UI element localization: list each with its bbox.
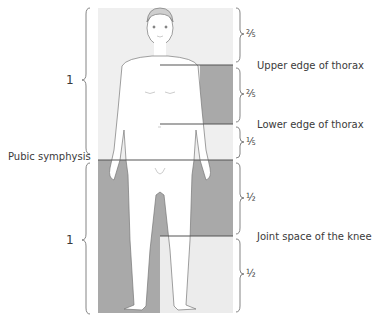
pubic-symphysis-label: Pubic symphysis xyxy=(8,151,91,162)
knee-joint-label: Joint space of the knee xyxy=(257,231,372,242)
lower-leg-fraction: ½ xyxy=(246,268,256,279)
upper-half-brace xyxy=(82,8,90,154)
head-neck-fraction: ⅖ xyxy=(246,28,256,39)
lower-half-brace xyxy=(82,163,90,314)
thorax-fraction: ⅖ xyxy=(246,88,256,99)
right-braces xyxy=(236,8,244,312)
thorax-shading xyxy=(200,65,233,124)
lower-ratio-label: 1 xyxy=(66,233,74,247)
upper-thorax-label: Upper edge of thorax xyxy=(257,60,364,71)
upper-ratio-label: 1 xyxy=(66,73,74,87)
thigh-fraction: ½ xyxy=(246,192,256,203)
lower-thorax-label: Lower edge of thorax xyxy=(257,119,364,130)
abdomen-fraction: ⅕ xyxy=(246,136,256,147)
